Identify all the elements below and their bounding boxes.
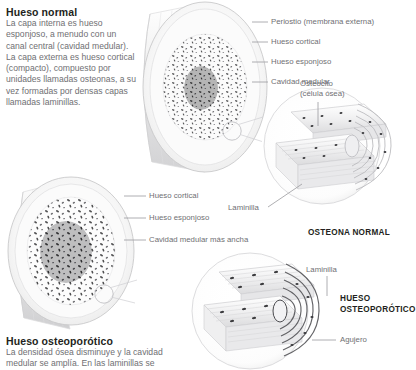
label-hueso-cortical-osteoporotic: Hueso cortical bbox=[149, 191, 198, 200]
osteoporotic-bone-heading: Hueso osteoporótico bbox=[6, 335, 186, 347]
normal-osteon-illustration bbox=[264, 88, 391, 204]
label-hueso-esponjoso-osteoporotic: Hueso esponjoso bbox=[149, 213, 209, 222]
caption-hueso-osteoporotico-line2: OSTEOPORÓTICO bbox=[340, 305, 416, 315]
osteoporotic-bone-paragraph: La densidad ósea disminuye y la cavidad … bbox=[6, 347, 186, 370]
label-hueso-esponjoso: Hueso esponjoso bbox=[271, 57, 331, 66]
label-cavidad-medular-mas-ancha: Cavidad medular más ancha bbox=[149, 235, 248, 244]
label-laminilla-normal: Laminilla bbox=[228, 203, 259, 212]
label-periostio: Periostio (membrana externa) bbox=[271, 17, 374, 26]
normal-bone-paragraph: La capa interna es hueso esponjoso, a me… bbox=[6, 18, 136, 108]
label-osteocito-line2: (célula ósea) bbox=[300, 89, 345, 98]
label-hueso-cortical: Hueso cortical bbox=[271, 37, 320, 46]
caption-hueso-osteoporotico-line1: HUESO bbox=[340, 294, 370, 304]
osteoporotic-osteon-illustration bbox=[192, 253, 319, 369]
label-agujero: Agujero bbox=[340, 335, 367, 344]
normal-bone-illustration bbox=[143, 2, 267, 172]
label-laminilla-osteoporotic: Laminilla bbox=[306, 265, 337, 274]
osteoporotic-bone-text-block: Hueso osteoporótico La densidad ósea dis… bbox=[6, 335, 186, 370]
osteoporotic-bone-illustration bbox=[8, 177, 137, 329]
normal-bone-heading: Hueso normal bbox=[6, 6, 136, 18]
label-osteocito-line1: Osteocito bbox=[300, 79, 333, 88]
caption-osteona-normal: OSTEONA NORMAL bbox=[308, 228, 390, 238]
normal-bone-text-block: Hueso normal La capa interna es hueso es… bbox=[6, 6, 136, 108]
